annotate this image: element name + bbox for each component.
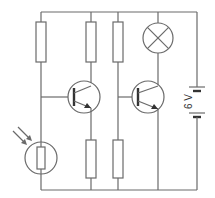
resistor-r1: [36, 12, 46, 142]
battery-voltage-label: 6 V: [183, 94, 194, 109]
resistor-r2: [86, 12, 96, 88]
resistor-r4: [86, 108, 96, 190]
transistor-t2: [132, 81, 164, 190]
resistor-r3: [113, 12, 123, 140]
resistor-r5: [113, 140, 123, 190]
lamp: [143, 12, 173, 86]
transistor-t1: [68, 81, 100, 113]
light-arrows-icon: [13, 127, 32, 145]
ldr: [25, 142, 57, 190]
circuit-diagram: 6 V: [0, 0, 215, 198]
